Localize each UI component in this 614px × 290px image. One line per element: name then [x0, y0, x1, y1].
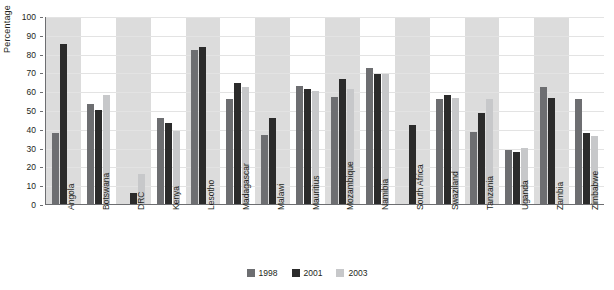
bar-groups — [46, 17, 604, 204]
x-axis-category-labels: AngolaBotswanaDRCKenyaLesothoMadagascarM… — [45, 208, 604, 270]
bar-1998 — [52, 133, 59, 204]
legend-swatch — [336, 269, 344, 277]
bar-1998 — [540, 87, 547, 205]
bar-group — [186, 17, 221, 204]
bar-group — [534, 17, 569, 204]
legend-item: 1998 — [247, 268, 278, 278]
bar-1998 — [366, 68, 373, 204]
y-axis-tick-20: 20 — [27, 162, 36, 172]
x-axis-label: Uganda — [520, 180, 530, 210]
y-axis-tickmark-80 — [40, 55, 43, 56]
bar-1998 — [157, 118, 164, 204]
y-axis-tickmark-0 — [40, 205, 43, 206]
x-axis-label: Namibia — [380, 179, 390, 210]
y-axis-tickmark-20 — [40, 167, 43, 168]
bar-1998 — [191, 50, 198, 204]
x-axis-label: Zambia — [555, 182, 565, 210]
chart-legend: 199820012003 — [0, 268, 614, 278]
y-axis-tickmark-10 — [40, 186, 43, 187]
plot-area — [45, 17, 604, 205]
y-axis-tick-0: 0 — [31, 200, 36, 210]
legend-label: 2001 — [304, 268, 323, 278]
legend-label: 1998 — [259, 268, 278, 278]
x-label-cell: Botswana — [80, 208, 115, 270]
legend-item: 2003 — [336, 268, 367, 278]
x-axis-label: Botswana — [101, 173, 111, 210]
x-label-cell: Madagascar — [220, 208, 255, 270]
x-axis-label: Zimbabwe — [590, 171, 600, 210]
y-axis-tickmark-40 — [40, 130, 43, 131]
bar-group — [255, 17, 290, 204]
y-axis-tick-70: 70 — [27, 68, 36, 78]
y-axis-tickmark-60 — [40, 92, 43, 93]
x-label-cell: Kenya — [150, 208, 185, 270]
x-axis-label: Kenya — [171, 186, 181, 210]
y-axis-tick-labels: 0102030405060708090100 — [0, 17, 43, 205]
y-axis-tickmark-90 — [40, 36, 43, 37]
bar-1998 — [226, 99, 233, 204]
y-axis-tick-50: 50 — [27, 106, 36, 116]
bar-1998 — [87, 104, 94, 204]
x-label-cell: Tanzania — [464, 208, 499, 270]
y-axis-tick-30: 30 — [27, 144, 36, 154]
bar-group — [116, 17, 151, 204]
y-axis-tick-40: 40 — [27, 125, 36, 135]
x-label-cell: Lesotho — [185, 208, 220, 270]
x-axis-label: Tanzania — [485, 176, 495, 210]
y-axis-tickmark-70 — [40, 73, 43, 74]
bar-group — [46, 17, 81, 204]
x-axis-label: Mauritius — [311, 176, 321, 210]
y-axis-tick-90: 90 — [27, 31, 36, 41]
y-axis-tickmark-50 — [40, 111, 43, 112]
x-label-cell: South Africa — [394, 208, 429, 270]
x-label-cell: Swaziland — [429, 208, 464, 270]
legend-swatch — [247, 269, 255, 277]
bar-chart: Percentage 0102030405060708090100 Angola… — [0, 0, 614, 290]
x-axis-label: Swaziland — [450, 171, 460, 210]
x-label-cell: Namibia — [359, 208, 394, 270]
bar-1998 — [331, 97, 338, 204]
x-axis-label: Malawi — [276, 184, 286, 210]
x-label-cell: Mauritius — [290, 208, 325, 270]
bar-1998 — [436, 99, 443, 204]
bar-1998 — [470, 132, 477, 204]
bar-group — [499, 17, 534, 204]
y-axis-tick-10: 10 — [27, 181, 36, 191]
bar-2001 — [60, 44, 67, 204]
legend-item: 2001 — [292, 268, 323, 278]
y-axis-tick-100: 100 — [22, 12, 36, 22]
legend-swatch — [292, 269, 300, 277]
x-axis-label: DRC — [136, 192, 146, 210]
x-label-cell: Uganda — [499, 208, 534, 270]
bar-group — [151, 17, 186, 204]
bar-2001 — [304, 89, 311, 204]
bar-1998 — [575, 99, 582, 204]
bar-2001 — [583, 133, 590, 204]
x-label-cell: Malawi — [255, 208, 290, 270]
x-axis-label: Angola — [66, 184, 76, 210]
x-axis-label: Mozambique — [345, 161, 355, 210]
bar-1998 — [296, 86, 303, 204]
x-label-cell: Zimbabwe — [569, 208, 604, 270]
y-axis-tickmark-30 — [40, 149, 43, 150]
x-label-cell: Mozambique — [325, 208, 360, 270]
bar-1998 — [505, 150, 512, 204]
x-label-cell: Angola — [45, 208, 80, 270]
bar-group — [360, 17, 395, 204]
legend-label: 2003 — [348, 268, 367, 278]
y-axis-tickmark-100 — [40, 17, 43, 18]
x-axis-label: Lesotho — [206, 180, 216, 210]
bar-1998 — [261, 135, 268, 204]
x-axis-label: South Africa — [415, 164, 425, 210]
y-axis-tick-80: 80 — [27, 50, 36, 60]
y-axis-tick-60: 60 — [27, 87, 36, 97]
x-label-cell: Zambia — [534, 208, 569, 270]
x-axis-label: Madagascar — [241, 163, 251, 210]
x-label-cell: DRC — [115, 208, 150, 270]
